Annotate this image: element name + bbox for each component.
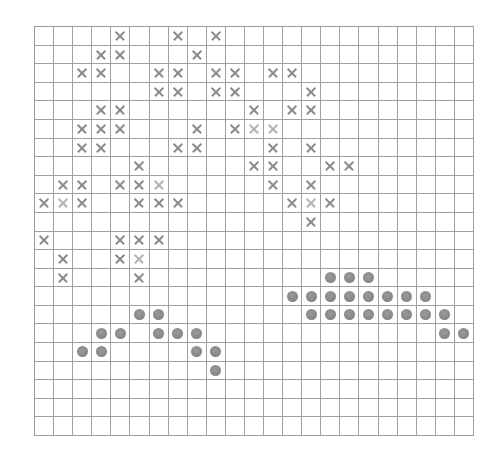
grid-cell-empty[interactable]: [359, 250, 378, 269]
cell-x-mark-icon[interactable]: [92, 46, 111, 65]
grid-cell-empty[interactable]: [302, 64, 321, 83]
grid-cell-empty[interactable]: [54, 27, 73, 46]
grid-cell-empty[interactable]: [340, 324, 359, 343]
grid-cell-empty[interactable]: [398, 139, 417, 158]
grid-cell-empty[interactable]: [455, 343, 474, 362]
cell-x-mark-icon[interactable]: [188, 139, 207, 158]
grid-cell-empty[interactable]: [245, 306, 264, 325]
grid-cell-empty[interactable]: [150, 287, 169, 306]
grid-cell-empty[interactable]: [436, 250, 455, 269]
grid-cell-empty[interactable]: [359, 194, 378, 213]
grid-cell-empty[interactable]: [169, 380, 188, 399]
grid-cell-empty[interactable]: [111, 83, 130, 102]
cell-x-mark-icon[interactable]: [130, 250, 149, 269]
cell-x-mark-icon[interactable]: [111, 232, 130, 251]
cell-dot-icon[interactable]: [398, 306, 417, 325]
grid-cell-empty[interactable]: [207, 101, 226, 120]
grid-cell-empty[interactable]: [340, 399, 359, 418]
grid-cell-empty[interactable]: [226, 287, 245, 306]
grid-cell-empty[interactable]: [302, 362, 321, 381]
grid-cell-empty[interactable]: [73, 306, 92, 325]
grid-cell-empty[interactable]: [130, 417, 149, 436]
grid-cell-empty[interactable]: [340, 417, 359, 436]
cell-dot-icon[interactable]: [359, 287, 378, 306]
cell-dot-icon[interactable]: [92, 343, 111, 362]
grid-cell-empty[interactable]: [188, 287, 207, 306]
cell-x-mark-icon[interactable]: [92, 101, 111, 120]
grid-cell-empty[interactable]: [73, 213, 92, 232]
grid-cell-empty[interactable]: [35, 362, 54, 381]
grid-cell-empty[interactable]: [264, 46, 283, 65]
grid-cell-empty[interactable]: [169, 362, 188, 381]
cell-dot-icon[interactable]: [302, 306, 321, 325]
grid-cell-empty[interactable]: [150, 343, 169, 362]
grid-cell-empty[interactable]: [207, 120, 226, 139]
grid-cell-empty[interactable]: [92, 157, 111, 176]
grid-cell-empty[interactable]: [379, 46, 398, 65]
grid-cell-empty[interactable]: [54, 380, 73, 399]
grid-cell-empty[interactable]: [150, 101, 169, 120]
grid-cell-empty[interactable]: [92, 194, 111, 213]
cell-dot-icon[interactable]: [283, 287, 302, 306]
grid-cell-empty[interactable]: [207, 399, 226, 418]
grid-cell-empty[interactable]: [321, 213, 340, 232]
grid-cell-empty[interactable]: [417, 343, 436, 362]
grid-cell-empty[interactable]: [436, 362, 455, 381]
grid-cell-empty[interactable]: [35, 101, 54, 120]
grid-cell-empty[interactable]: [340, 380, 359, 399]
cell-dot-icon[interactable]: [92, 324, 111, 343]
grid-cell-empty[interactable]: [359, 324, 378, 343]
cell-dot-icon[interactable]: [379, 306, 398, 325]
grid-cell-empty[interactable]: [436, 380, 455, 399]
grid-cell-empty[interactable]: [436, 101, 455, 120]
cell-x-mark-icon[interactable]: [321, 157, 340, 176]
grid-cell-empty[interactable]: [73, 27, 92, 46]
grid-cell-empty[interactable]: [417, 380, 436, 399]
grid-cell-empty[interactable]: [92, 417, 111, 436]
cell-dot-icon[interactable]: [321, 287, 340, 306]
grid-cell-empty[interactable]: [111, 213, 130, 232]
grid-cell-empty[interactable]: [417, 83, 436, 102]
cell-x-mark-icon[interactable]: [150, 64, 169, 83]
grid-cell-empty[interactable]: [73, 101, 92, 120]
cell-x-mark-icon[interactable]: [35, 194, 54, 213]
grid-cell-empty[interactable]: [111, 64, 130, 83]
grid-cell-empty[interactable]: [245, 269, 264, 288]
grid-cell-empty[interactable]: [226, 324, 245, 343]
cell-dot-icon[interactable]: [417, 306, 436, 325]
grid-cell-empty[interactable]: [245, 139, 264, 158]
grid-cell-empty[interactable]: [417, 194, 436, 213]
grid-cell-empty[interactable]: [111, 139, 130, 158]
cell-x-mark-icon[interactable]: [54, 176, 73, 195]
grid-cell-empty[interactable]: [150, 120, 169, 139]
grid-cell-empty[interactable]: [379, 83, 398, 102]
cell-dot-icon[interactable]: [340, 306, 359, 325]
grid-cell-empty[interactable]: [359, 139, 378, 158]
grid-cell-empty[interactable]: [92, 27, 111, 46]
grid-cell-empty[interactable]: [379, 232, 398, 251]
grid-cell-empty[interactable]: [73, 83, 92, 102]
grid-cell-empty[interactable]: [398, 213, 417, 232]
grid-cell-empty[interactable]: [398, 324, 417, 343]
grid-cell-empty[interactable]: [54, 232, 73, 251]
grid-cell-empty[interactable]: [283, 213, 302, 232]
grid-cell-empty[interactable]: [455, 269, 474, 288]
grid-cell-empty[interactable]: [283, 27, 302, 46]
grid-cell-empty[interactable]: [398, 343, 417, 362]
cell-x-mark-icon[interactable]: [245, 101, 264, 120]
grid-cell-empty[interactable]: [111, 157, 130, 176]
grid-cell-empty[interactable]: [359, 362, 378, 381]
grid-cell-empty[interactable]: [359, 46, 378, 65]
grid-cell-empty[interactable]: [188, 399, 207, 418]
grid-cell-empty[interactable]: [417, 176, 436, 195]
grid-cell-empty[interactable]: [417, 213, 436, 232]
grid-cell-empty[interactable]: [283, 157, 302, 176]
grid-cell-empty[interactable]: [92, 380, 111, 399]
cell-dot-icon[interactable]: [436, 324, 455, 343]
grid-cell-empty[interactable]: [264, 250, 283, 269]
grid-cell-empty[interactable]: [321, 250, 340, 269]
cell-dot-icon[interactable]: [150, 306, 169, 325]
grid-cell-empty[interactable]: [35, 269, 54, 288]
grid-cell-empty[interactable]: [379, 213, 398, 232]
cell-x-mark-icon[interactable]: [111, 27, 130, 46]
